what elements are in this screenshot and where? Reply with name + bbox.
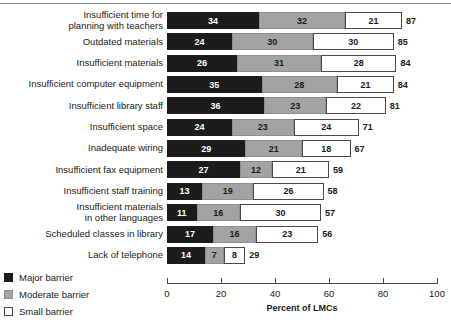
stacked-bar: 131926	[167, 183, 324, 200]
category-label: Insufficient time for planning with teac…	[0, 10, 163, 31]
segment-moderate-barrier: 30	[232, 33, 313, 50]
segment-moderate-barrier: 16	[213, 226, 256, 243]
segment-major-barrier: 14	[167, 247, 205, 264]
stacked-bar: 343221	[167, 12, 402, 29]
segment-major-barrier: 26	[167, 55, 237, 72]
chart-row: Scheduled classes in library17162356	[0, 226, 451, 243]
stacked-bar: 242324	[167, 119, 359, 136]
legend-item: Major barrier	[4, 269, 154, 286]
chart-row: Lack of telephone147829	[0, 247, 451, 264]
x-axis-tick-label: 40	[255, 288, 295, 299]
segment-major-barrier: 34	[167, 12, 259, 29]
category-label: Scheduled classes in library	[0, 229, 163, 240]
bar-total-label: 58	[324, 183, 338, 200]
bar-total-label: 87	[402, 12, 416, 29]
chart-row: Insufficient space24232471	[0, 119, 451, 136]
segment-major-barrier: 17	[167, 226, 213, 243]
segment-small-barrier: 8	[224, 247, 246, 264]
category-label: Insufficient staff training	[0, 186, 163, 197]
segment-major-barrier: 11	[167, 204, 197, 221]
legend-item: Moderate barrier	[4, 286, 154, 303]
legend-label: Major barrier	[19, 272, 73, 283]
category-label: Insufficient materials	[0, 58, 163, 69]
bar-total-label: 57	[321, 204, 335, 221]
stacked-bar: 292118	[167, 140, 351, 157]
stacked-bar: 263128	[167, 55, 397, 72]
bar-total-label: 81	[386, 97, 400, 114]
legend-label: Small barrier	[19, 306, 73, 317]
swatch-small-icon	[4, 307, 13, 316]
category-label: Insufficient materials in other language…	[0, 202, 163, 223]
stacked-bar: 352821	[167, 76, 394, 93]
segment-small-barrier: 21	[345, 12, 402, 29]
segment-small-barrier: 23	[256, 226, 318, 243]
segment-small-barrier: 30	[240, 204, 321, 221]
chart-row: Insufficient staff training13192658	[0, 183, 451, 200]
segment-small-barrier: 30	[313, 33, 394, 50]
swatch-major-icon	[4, 273, 13, 282]
stacked-bar: 171623	[167, 226, 318, 243]
segment-small-barrier: 21	[272, 161, 329, 178]
category-label: Insufficient computer equipment	[0, 79, 163, 90]
chart-row: Inadequate wiring29211867	[0, 140, 451, 157]
x-axis-tick-label: 80	[363, 288, 403, 299]
segment-moderate-barrier: 21	[245, 140, 302, 157]
segment-moderate-barrier: 23	[264, 97, 326, 114]
chart-row: Insufficient fax equipment27122159	[0, 161, 451, 178]
chart-row: Insufficient materials26312884	[0, 55, 451, 72]
chart-row: Insufficient materials in other language…	[0, 204, 451, 221]
segment-major-barrier: 35	[167, 76, 262, 93]
stacked-bar: 1478	[167, 247, 245, 264]
x-axis-tick	[329, 278, 330, 284]
segment-major-barrier: 36	[167, 97, 264, 114]
x-axis-tick-label: 20	[201, 288, 241, 299]
segment-small-barrier: 22	[326, 97, 385, 114]
legend-item: Small barrier	[4, 303, 154, 320]
chart-row: Insufficient computer equipment35282184	[0, 76, 451, 93]
bar-total-label: 84	[397, 55, 411, 72]
segment-small-barrier: 18	[302, 140, 351, 157]
bar-total-label: 59	[329, 161, 343, 178]
x-axis-tick	[383, 278, 384, 284]
swatch-moderate-icon	[4, 290, 13, 299]
bar-total-label: 85	[394, 33, 408, 50]
segment-small-barrier: 28	[321, 55, 397, 72]
segment-moderate-barrier: 7	[205, 247, 224, 264]
segment-moderate-barrier: 23	[232, 119, 294, 136]
segment-small-barrier: 26	[253, 183, 323, 200]
segment-moderate-barrier: 12	[240, 161, 272, 178]
segment-major-barrier: 27	[167, 161, 240, 178]
bar-total-label: 56	[318, 226, 332, 243]
x-axis-tick	[437, 278, 438, 284]
x-axis-title: Percent of LMCs	[167, 303, 437, 313]
category-label: Insufficient library staff	[0, 101, 163, 112]
stacked-bar-chart: Insufficient time for planning with teac…	[0, 0, 451, 328]
bar-total-label: 71	[359, 119, 373, 136]
segment-small-barrier: 21	[337, 76, 394, 93]
x-axis-tick	[221, 278, 222, 284]
x-axis-tick-label: 100	[417, 288, 451, 299]
x-axis-line	[167, 283, 437, 284]
x-axis-tick-label: 60	[309, 288, 349, 299]
stacked-bar: 111630	[167, 204, 321, 221]
category-label: Insufficient space	[0, 122, 163, 133]
segment-moderate-barrier: 28	[262, 76, 338, 93]
segment-moderate-barrier: 16	[197, 204, 240, 221]
segment-major-barrier: 24	[167, 119, 232, 136]
stacked-bar: 362322	[167, 97, 386, 114]
bar-total-label: 29	[245, 247, 259, 264]
chart-row: Insufficient time for planning with teac…	[0, 12, 451, 29]
category-label: Insufficient fax equipment	[0, 165, 163, 176]
category-label: Lack of telephone	[0, 250, 163, 261]
x-axis-tick	[275, 278, 276, 284]
chart-legend: Major barrierModerate barrierSmall barri…	[4, 269, 154, 320]
segment-small-barrier: 24	[294, 119, 359, 136]
stacked-bar: 271221	[167, 161, 329, 178]
segment-moderate-barrier: 32	[259, 12, 345, 29]
category-label: Outdated materials	[0, 37, 163, 48]
x-axis-tick	[167, 278, 168, 284]
segment-moderate-barrier: 31	[237, 55, 321, 72]
stacked-bar: 243030	[167, 33, 394, 50]
segment-major-barrier: 24	[167, 33, 232, 50]
category-label: Inadequate wiring	[0, 143, 163, 154]
